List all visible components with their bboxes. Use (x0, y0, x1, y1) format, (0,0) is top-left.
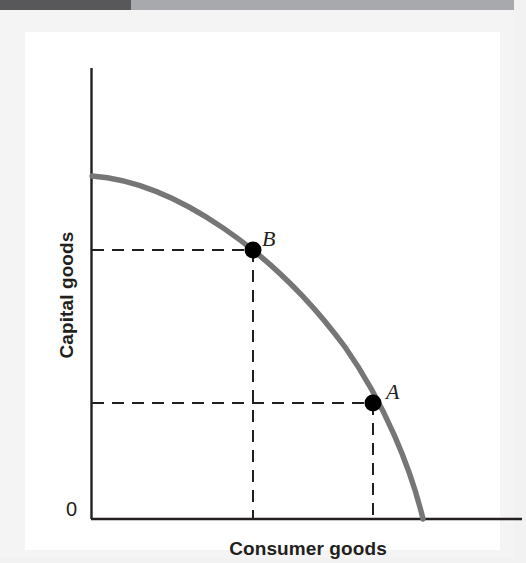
data-point-b-marker (245, 242, 262, 259)
axis-origin-label: 0 (66, 498, 77, 521)
data-point-b-label: B (262, 226, 275, 252)
chart-axes (91, 68, 522, 519)
ppf-curve (92, 176, 423, 519)
x-axis-title: Consumer goods (91, 538, 525, 560)
guide-lines-point-b (92, 250, 253, 519)
top-bar-dark-segment (0, 0, 131, 10)
ppf-chart-svg (25, 32, 526, 563)
guide-lines-point-a (92, 403, 373, 519)
data-point-a-marker (365, 395, 382, 412)
page-surround: B A 0 Capital goods Consumer goods (0, 10, 514, 558)
data-point-a-label: A (386, 379, 399, 405)
decorative-top-bar (0, 0, 514, 10)
figure-panel: B A 0 Capital goods Consumer goods (25, 32, 500, 550)
top-bar-light-segment (131, 0, 514, 10)
y-axis-title: Capital goods (56, 225, 78, 365)
